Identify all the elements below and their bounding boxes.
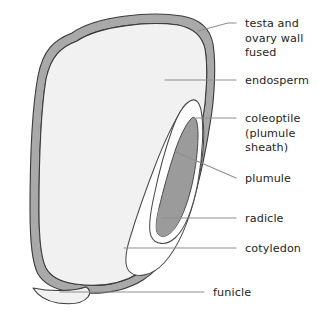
label-line: endosperm [245, 74, 309, 87]
label-plumule: plumule [245, 172, 291, 185]
label-testa-ovary-wall: testa and ovary wall fused [245, 17, 307, 59]
label-endosperm: endosperm [245, 74, 309, 87]
label-line: sheath) [245, 141, 288, 154]
label-line: ovary wall [245, 32, 303, 45]
label-line: cotyledon [245, 242, 301, 255]
label-line: funicle [213, 286, 251, 299]
label-line: (plumule [245, 127, 296, 140]
label-line: radicle [245, 212, 284, 225]
label-coleoptile: coleoptile (plumule sheath) [245, 112, 304, 154]
label-radicle: radicle [245, 212, 284, 225]
seed-diagram-canvas: testa and ovary wall fused endosperm col… [0, 0, 318, 318]
label-line: coleoptile [245, 112, 301, 125]
label-line: testa and [245, 17, 299, 30]
label-line: plumule [245, 172, 291, 185]
seed-diagram: testa and ovary wall fused endosperm col… [0, 0, 318, 318]
label-line: fused [245, 46, 276, 59]
labels: testa and ovary wall fused endosperm col… [213, 17, 309, 299]
label-funicle: funicle [213, 286, 251, 299]
label-cotyledon: cotyledon [245, 242, 301, 255]
